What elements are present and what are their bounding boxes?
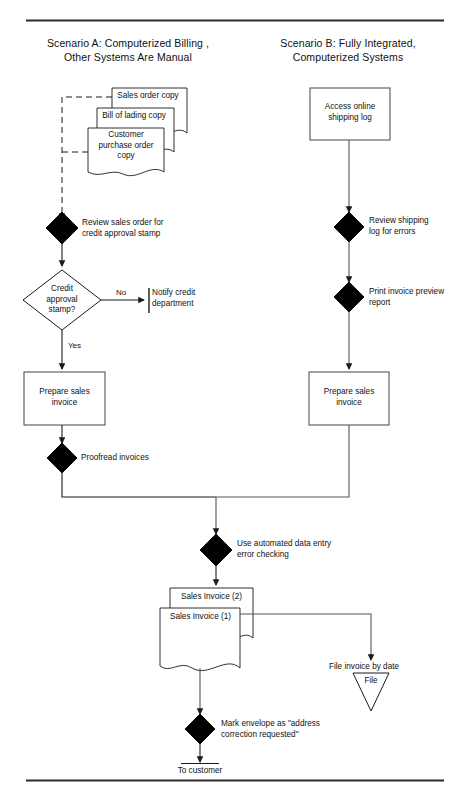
label-proofread-invoices: Proofread invoices [81,453,201,464]
label-credit-approval-decision: Credit approval stamp? [32,284,92,316]
manual-op-mark-envelope [185,714,215,744]
label-prepare-sales-invoice-a: Prepare sales invoice [24,387,105,408]
label-access-online-shipping-log: Access online shipping log [310,102,390,123]
label-error-checking: Use automated data entry error checking [237,539,367,560]
merge-path-scenario-a [62,473,216,497]
manual-op-print-invoice-preview [334,282,364,312]
label-sales-order-copy: Sales order copy [112,91,184,102]
label-file-invoice-by-date: File invoice by date [314,662,414,673]
label-to-customer: To customer [165,766,235,777]
label-sales-invoice-2: Sales Invoice (2) [171,592,252,603]
label-sales-invoice-1: Sales Invoice (1) [161,612,240,623]
manual-op-error-checking [200,534,232,566]
label-prepare-sales-invoice-b: Prepare sales invoice [309,387,389,408]
manual-op-review-sales-order [46,212,78,244]
flowchart-page: Scenario A: Computerized Billing , Other… [0,0,465,795]
manual-op-proofread-invoices [47,443,77,473]
label-file-symbol: File [353,676,389,687]
label-branch-yes: Yes [68,341,98,352]
merge-path-scenario-b [216,425,349,497]
label-print-invoice-preview: Print invoice preview report [369,287,465,308]
label-mark-envelope: Mark envelope as "address correction req… [221,719,371,740]
label-notify-credit-department: Notify credit department [152,288,228,309]
heading-scenario-a: Scenario A: Computerized Billing , Other… [18,36,238,64]
heading-scenario-b: Scenario B: Fully Integrated, Computeriz… [248,36,448,64]
connector-invoice-to-file [240,614,371,660]
label-branch-no: No [105,288,137,299]
label-review-shipping-log: Review shipping log for errors [369,216,461,237]
label-bill-of-lading-copy: Bill of lading copy [96,111,172,122]
manual-op-review-shipping-log [334,212,364,242]
label-review-sales-order: Review sales order for credit approval s… [82,218,212,239]
label-customer-purchase-order-copy: Customer purchase order copy [89,130,163,162]
